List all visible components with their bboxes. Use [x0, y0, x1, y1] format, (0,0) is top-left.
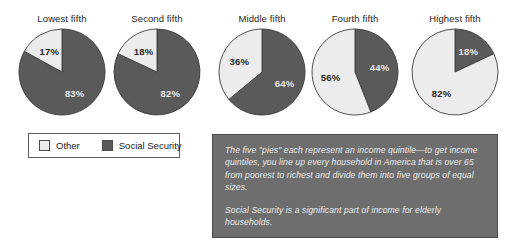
pie-chart-2: Second fifth18%82%: [109, 13, 205, 116]
explanatory-note-box: The five "pies" each represent an income…: [212, 134, 498, 238]
pie-3-label-social-security: 64%: [275, 77, 295, 88]
pie-5-label-other: 82%: [432, 88, 452, 99]
legend-item-other: Other: [39, 140, 80, 151]
pie-graphic-1: 17%83%: [18, 28, 106, 116]
pie-chart-5: Highest fifth82%18%: [407, 13, 503, 116]
pie-svg-2: [113, 28, 201, 116]
pie-chart-1: Lowest fifth17%83%: [14, 13, 110, 116]
note-paragraph-2: Social Security is a significant part of…: [225, 204, 485, 229]
legend-swatch-social-security: [102, 140, 113, 151]
pie-1-label-other: 17%: [39, 45, 59, 56]
pie-5-label-social-security: 18%: [459, 45, 479, 56]
legend-item-social-security: Social Security: [102, 140, 182, 151]
pie-3-label-other: 36%: [230, 56, 250, 67]
pie-graphic-2: 18%82%: [113, 28, 201, 116]
note-paragraph-1: The five "pies" each represent an income…: [225, 144, 485, 193]
legend-label-other: Other: [56, 140, 80, 151]
pie-svg-5: [411, 28, 499, 116]
pie-graphic-5: 82%18%: [411, 28, 499, 116]
pie-title-1: Lowest fifth: [14, 13, 110, 25]
pie-title-3: Middle fifth: [214, 13, 310, 25]
pie-svg-3: [218, 28, 306, 116]
pie-chart-4: Fourth fifth56%44%: [307, 13, 403, 116]
pie-4-label-social-security: 44%: [370, 62, 390, 73]
pie-svg-1: [18, 28, 106, 116]
chart-legend: Other Social Security: [28, 133, 180, 158]
pie-2-label-social-security: 82%: [161, 88, 181, 99]
pie-title-2: Second fifth: [109, 13, 205, 25]
pie-4-label-other: 56%: [321, 71, 341, 82]
legend-label-social-security: Social Security: [119, 140, 182, 151]
chart-canvas: Lowest fifth17%83%Second fifth18%82%Midd…: [0, 0, 511, 244]
pie-2-label-other: 18%: [134, 45, 154, 56]
pie-title-4: Fourth fifth: [307, 13, 403, 25]
pie-1-label-social-security: 83%: [65, 88, 85, 99]
pie-chart-3: Middle fifth36%64%: [214, 13, 310, 116]
legend-swatch-other: [39, 140, 50, 151]
pie-graphic-4: 56%44%: [311, 28, 399, 116]
pie-title-5: Highest fifth: [407, 13, 503, 25]
pie-graphic-3: 36%64%: [218, 28, 306, 116]
